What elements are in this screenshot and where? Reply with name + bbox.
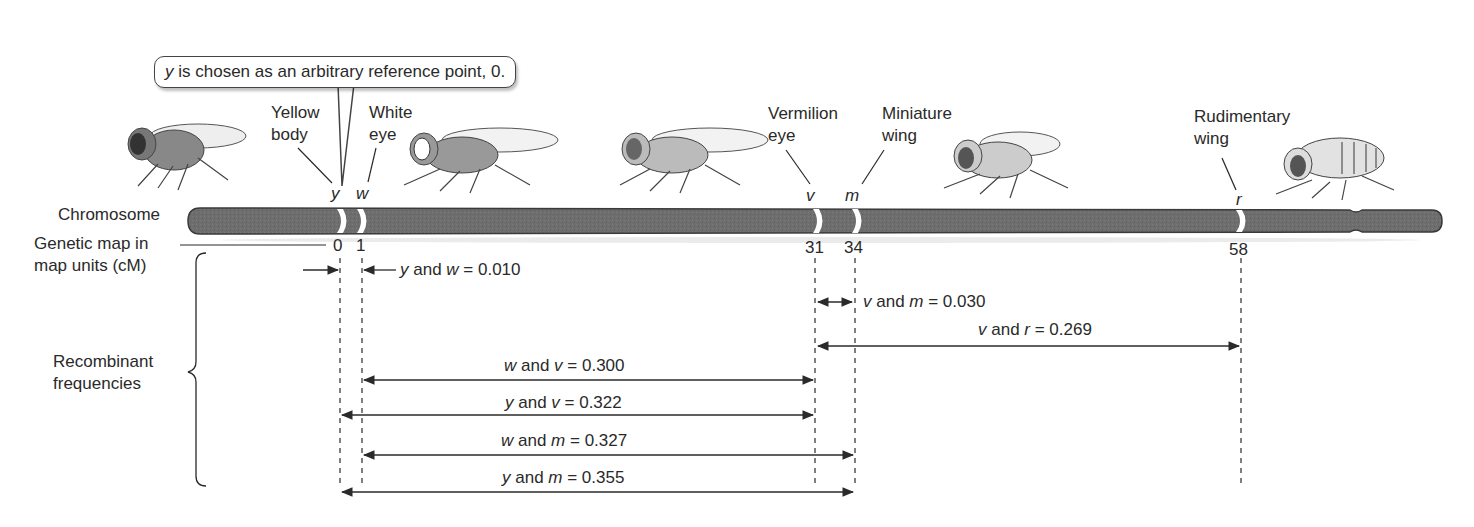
rf-v-r: v and r = 0.269 — [978, 320, 1092, 340]
locus-m: m — [845, 186, 859, 206]
chromosome-label: Chromosome — [58, 205, 160, 225]
callout-locus: y — [165, 62, 174, 81]
gene-name-vermilion-line1: Vermilion — [768, 104, 838, 124]
locus-w: w — [356, 184, 368, 204]
callout-tail — [338, 84, 354, 186]
locus-y: y — [331, 184, 340, 204]
fly-vermilion-eye-icon — [620, 128, 768, 193]
gene-name-yellow-line2: body — [271, 125, 308, 145]
brace — [188, 253, 206, 486]
gene-name-white-line1: White — [369, 103, 412, 123]
dashed-guides — [340, 258, 1241, 488]
map-position-v: 31 — [805, 238, 824, 258]
gene-name-vermilion-line2: eye — [768, 126, 795, 146]
map-position-w: 1 — [356, 236, 365, 256]
fly-white-eye-icon — [404, 128, 558, 193]
gene-name-rudimentary-line1: Rudimentary — [1194, 107, 1290, 127]
gene-name-white-line2: eye — [369, 125, 396, 145]
gene-name-miniature-line1: Miniature — [882, 104, 952, 124]
rf-v-m: v and m = 0.030 — [863, 292, 985, 312]
rf-y-v: y and v = 0.322 — [505, 393, 622, 413]
gene-name-yellow-line1: Yellow — [271, 103, 320, 123]
recombinant-arrows — [303, 270, 1239, 492]
genetic-map-label-line2: map units (cM) — [34, 256, 146, 276]
locus-r: r — [1236, 190, 1242, 210]
callout-text: is chosen as an arbitrary reference poin… — [174, 62, 506, 81]
map-position-r: 58 — [1229, 240, 1248, 260]
map-position-y: 0 — [333, 236, 342, 256]
gene-name-rudimentary-line2: wing — [1194, 129, 1229, 149]
fly-wild-type-icon — [128, 124, 246, 190]
map-position-m: 34 — [844, 238, 863, 258]
recombinant-label-line2: frequencies — [53, 374, 141, 394]
rf-w-m: w and m = 0.327 — [501, 431, 627, 451]
reference-point-callout: y is chosen as an arbitrary reference po… — [154, 56, 516, 88]
rf-w-v: w and v = 0.300 — [504, 356, 625, 376]
rf-y-w: y and w = 0.010 — [400, 260, 521, 280]
recombinant-label-line1: Recombinant — [53, 352, 153, 372]
locus-v: v — [806, 186, 815, 206]
rf-y-m: y and m = 0.355 — [502, 468, 624, 488]
fly-miniature-wing-icon — [944, 132, 1068, 198]
fly-rudimentary-wing-icon — [1276, 138, 1394, 200]
genetic-map-label-line1: Genetic map in — [34, 234, 148, 254]
gene-name-miniature-line2: wing — [882, 126, 917, 146]
